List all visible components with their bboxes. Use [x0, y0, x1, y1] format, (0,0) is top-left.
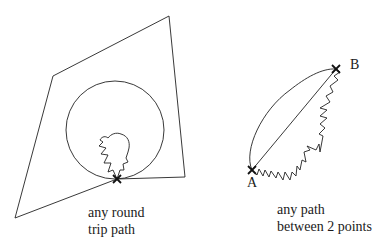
circle-path: [66, 81, 164, 179]
zigzag-loop-path: [99, 133, 129, 179]
point-a-label: A: [247, 175, 257, 191]
point-a-cross-icon: [248, 166, 256, 174]
caption-line-1: any path: [277, 201, 372, 218]
quadrilateral-path: [15, 16, 185, 218]
round-trip-caption: any round trip path: [88, 204, 144, 238]
two-points-caption: any path between 2 points: [277, 201, 372, 235]
straight-path: [252, 69, 336, 170]
point-b-label: B: [350, 57, 359, 73]
caption-line-1: any round: [88, 204, 144, 221]
caption-line-2: trip path: [88, 221, 144, 238]
caption-line-2: between 2 points: [277, 218, 372, 235]
